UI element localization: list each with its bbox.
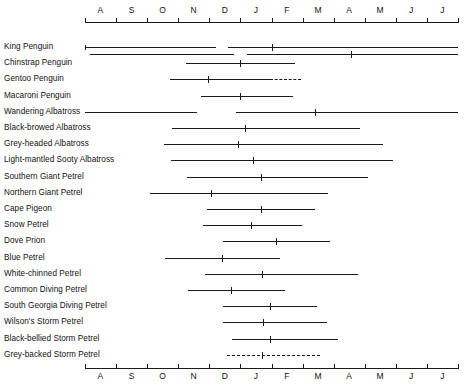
timeline-bar [170, 79, 270, 80]
peak-marker [211, 190, 212, 197]
peak-marker [262, 271, 263, 278]
timeline-bar [223, 322, 327, 323]
timeline-bar [247, 54, 458, 55]
axis-month-label: N [184, 371, 204, 381]
axis-tick [458, 18, 459, 23]
axis-tick [209, 364, 210, 369]
axis-tick [396, 364, 397, 369]
axis-tick [396, 18, 397, 23]
axis-tick [147, 18, 148, 23]
axis-tick [303, 364, 304, 369]
timeline-bar [90, 54, 235, 55]
peak-marker [272, 44, 273, 51]
timeline-bar [164, 144, 383, 145]
species-label: Cape Pigeon [4, 204, 52, 213]
axis-month-label: S [122, 5, 142, 15]
species-label: Snow Petrel [4, 220, 49, 229]
species-label: Wandering Albatross [4, 107, 80, 116]
timeline-bar [188, 290, 285, 291]
axis-tick [147, 364, 148, 369]
axis-month-label: J [401, 5, 421, 15]
top-axis: ASONDJFMAMJJ [0, 0, 465, 30]
axis-month-label: M [308, 5, 328, 15]
timeline-bar [232, 339, 338, 340]
axis-month-label: F [277, 371, 297, 381]
axis-month-label: J [401, 371, 421, 381]
species-label: Grey-backed Storm Petrel [4, 350, 100, 359]
peak-marker [222, 255, 223, 262]
peak-marker [261, 206, 262, 213]
peak-marker [238, 141, 239, 148]
species-label: Light-mantled Sooty Albatross [4, 155, 114, 164]
axis-tick [334, 18, 335, 23]
timeline-bar [187, 177, 368, 178]
axis-tick [85, 364, 86, 369]
axis-month-label: M [308, 371, 328, 381]
peak-marker [270, 336, 271, 343]
axis-month-label: A [339, 5, 359, 15]
timeline-bar [150, 193, 328, 194]
peak-marker [276, 238, 277, 245]
axis-tick [209, 18, 210, 23]
axis-tick [365, 364, 366, 369]
axis-tick [458, 364, 459, 369]
axis-month-label: J [246, 371, 266, 381]
axis-tick [272, 18, 273, 23]
axis-month-label: O [153, 5, 173, 15]
species-label: Gentoo Penguin [4, 74, 64, 83]
axis-tick [178, 364, 179, 369]
peak-marker [315, 109, 316, 116]
axis-month-label: N [184, 5, 204, 15]
timeline-bar [228, 47, 458, 48]
species-label: Dove Prion [4, 236, 45, 245]
species-label: Macaroni Penguin [4, 91, 71, 100]
species-label: King Penguin [4, 42, 53, 51]
timeline-bar-dashed [270, 79, 301, 80]
axis-month-label: M [370, 5, 390, 15]
peak-marker [263, 319, 264, 326]
timeline-bar [201, 96, 293, 97]
axis-tick [427, 364, 428, 369]
timeline-bar [205, 274, 358, 275]
axis-month-label: J [432, 371, 452, 381]
species-label: South Georgia Diving Petrel [4, 301, 107, 310]
timeline-bar-dashed [227, 355, 320, 356]
breeding-season-chart: ASONDJFMAMJJ King PenguinChinstrap Pengu… [0, 0, 465, 391]
species-label: Grey-headed Albatross [4, 139, 89, 148]
axis-month-label: J [432, 5, 452, 15]
species-label: Black-browed Albatross [4, 123, 91, 132]
species-label: Chinstrap Penguin [4, 58, 72, 67]
timeline-bar [85, 47, 216, 48]
timeline-bar [203, 225, 302, 226]
peak-marker [270, 303, 271, 310]
peak-marker [245, 125, 246, 132]
species-label: Southern Giant Petrel [4, 172, 84, 181]
axis-tick [334, 364, 335, 369]
axis-month-label: A [91, 5, 111, 15]
axis-month-label: M [370, 371, 390, 381]
timeline-bar [85, 112, 197, 113]
peak-marker [262, 352, 263, 359]
axis-tick [365, 18, 366, 23]
axis-month-label: A [339, 371, 359, 381]
axis-month-label: J [246, 5, 266, 15]
axis-tick [178, 18, 179, 23]
timeline-bar [172, 128, 360, 129]
axis-month-label: S [122, 371, 142, 381]
axis-month-label: D [215, 371, 235, 381]
timeline-bar [236, 112, 458, 113]
peak-marker [351, 51, 352, 58]
species-label: White-chinned Petrel [4, 269, 81, 278]
bottom-axis: ASONDJFMAMJJ [0, 361, 465, 391]
axis-tick [303, 18, 304, 23]
peak-marker [261, 174, 262, 181]
peak-marker [253, 157, 254, 164]
species-label: Blue Petrel [4, 253, 45, 262]
species-label: Black-bellied Storm Petrel [4, 334, 100, 343]
axis-month-label: F [277, 5, 297, 15]
timeline-bar [171, 160, 393, 161]
axis-tick [116, 364, 117, 369]
peak-marker [240, 93, 241, 100]
axis-tick [427, 18, 428, 23]
axis-tick [272, 364, 273, 369]
